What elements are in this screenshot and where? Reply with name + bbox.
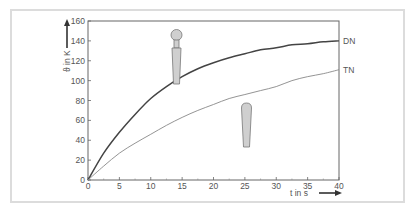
series-label-dn: DN — [343, 36, 355, 46]
x-axis-label: t in s — [290, 188, 308, 198]
y-tick-label: 100 — [71, 76, 85, 86]
x-tick-label: 0 — [86, 181, 91, 191]
dn-probe-icon — [171, 30, 182, 85]
x-tick-label: 5 — [117, 181, 122, 191]
x-tick-label: 30 — [272, 181, 282, 191]
x-tick-label: 25 — [240, 181, 250, 191]
y-tick-label: 140 — [71, 36, 85, 46]
series-group: DNTN — [88, 36, 355, 180]
tn-probe-icon — [242, 103, 252, 147]
series-line-dn — [88, 41, 339, 180]
y-axis-arrowhead-icon — [64, 19, 70, 26]
x-tick-label: 15 — [177, 181, 187, 191]
series-label-tn: TN — [343, 65, 354, 75]
y-tick-label: 0 — [80, 175, 85, 185]
chart-svg: 0510152025303540 020406080100120140160 D… — [0, 0, 414, 208]
x-tick-label: 40 — [334, 181, 344, 191]
y-tick-label: 20 — [76, 155, 86, 165]
y-tick-label: 120 — [71, 56, 85, 66]
x-tick-label: 20 — [209, 181, 219, 191]
y-axis-label: ϑ in K — [62, 50, 72, 72]
y-tick-label: 80 — [76, 96, 86, 106]
x-tick-label: 10 — [146, 181, 156, 191]
y-tick-label: 160 — [71, 16, 85, 26]
y-tick-label: 40 — [76, 135, 86, 145]
y-tick-label: 60 — [76, 115, 86, 125]
